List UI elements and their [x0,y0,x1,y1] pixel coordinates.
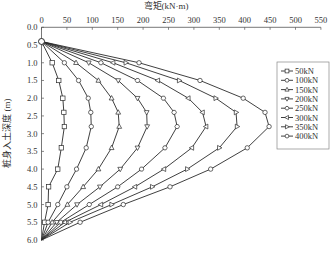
y-tick-label: 4.5 [27,182,38,192]
hexagon-marker-icon [139,167,144,171]
circle-marker-icon [121,202,125,206]
triangle-down-marker-icon [144,111,149,115]
x-tick-label: 200 [137,15,150,25]
x-tick-label: 450 [264,15,277,25]
y-tick-label: 5.0 [27,200,38,210]
circle-marker-icon [285,78,289,82]
circle-marker-icon [198,78,202,82]
series-line [42,41,65,240]
circle-marker-icon [89,110,93,114]
circle-marker-icon [137,61,141,65]
circle-marker-icon [241,96,245,100]
series-100kN [42,41,94,240]
hexagon-marker-icon [285,106,289,109]
square-marker-icon [62,110,66,114]
y-axis-title: 桩身入土深度 (m) [1,98,12,167]
circle-marker-icon [84,146,88,150]
series-line [42,41,92,240]
y-tick-label: 5.5 [27,217,38,227]
hexagon-marker-icon [99,61,104,65]
circle-marker-icon [168,185,172,189]
triangle-up-marker-icon [74,60,79,64]
triangle-right-marker-icon [68,220,72,225]
series-400kN [42,41,272,240]
triangle-up-marker-icon [117,124,122,128]
hexagon-marker-icon [163,146,168,150]
series-300kN [42,41,208,240]
x-axis-title: 弯矩(kN·m) [144,0,189,11]
triangle-left-marker-icon [155,78,159,83]
square-marker-icon [59,146,63,150]
triangle-up-marker-icon [116,110,121,114]
x-axis-label: 弯矩(kN·m) [144,0,189,11]
hexagon-marker-icon [161,96,166,100]
circle-marker-icon [208,167,212,171]
x-tick-label: 550 [315,15,328,25]
y-tick-label: 1.0 [27,58,38,68]
x-tick-label: 150 [111,15,124,25]
circle-marker-icon [285,134,289,138]
square-marker-icon [285,69,289,73]
hexagon-marker-icon [172,110,177,114]
triangle-right-marker-icon [110,202,114,207]
circle-marker-icon [65,185,69,189]
y-tick-label: 0.5 [27,40,38,50]
square-marker-icon [61,96,65,100]
circle-marker-icon [267,124,271,128]
circle-marker-icon [245,146,249,150]
triangle-down-marker-icon [145,125,150,129]
triangle-right-marker-icon [177,78,181,83]
square-marker-icon [46,202,50,206]
square-marker-icon [46,185,50,189]
x-tick-label: 300 [188,15,201,25]
moment-depth-chart: 弯矩(kN·m) 桩身入土深度 (m) 05010015020025030035… [0,0,336,254]
triangle-down-marker-icon [86,61,91,65]
y-tick-label: 4.0 [27,164,38,174]
y-tick-label: 3.0 [27,129,38,139]
circle-marker-icon [89,124,93,128]
hexagon-marker-icon [115,185,120,189]
circle-marker-icon [56,202,60,206]
y-axis-label: 桩身入土深度 (m) [1,98,12,167]
triangle-right-marker-icon [235,124,239,129]
triangle-left-marker-icon [98,202,102,207]
square-marker-icon [56,167,60,171]
circle-marker-icon [74,167,78,171]
hexagon-marker-icon [175,125,180,129]
triangle-left-marker-icon [132,184,136,189]
series-line [42,41,207,240]
hexagon-marker-icon [135,78,140,82]
legend-label: 400kN [295,131,318,141]
x-tick-label: 500 [289,15,302,25]
x-tick-label: 350 [213,15,226,25]
legend: 50kN100kN150kN200kN250kN300kN350kN400kN [277,62,329,149]
triangle-up-marker-icon [109,145,114,149]
y-tick-label: 2.5 [27,111,38,121]
plot-area [39,38,272,240]
circle-marker-icon [78,220,82,224]
series-line [42,41,270,240]
y-tick-label: 6.0 [27,235,38,245]
origin-marker-icon [39,38,45,44]
circle-marker-icon [76,78,80,82]
x-tick-label: 250 [162,15,175,25]
square-marker-icon [50,61,54,65]
triangle-left-marker-icon [186,96,190,101]
y-tick-label: 3.5 [27,146,38,156]
x-tick-label: 50 [63,15,72,25]
triangle-right-marker-icon [150,184,154,189]
x-tick-label: 400 [238,15,251,25]
x-tick-label: 100 [86,15,99,25]
triangle-down-marker-icon [98,185,103,189]
circle-marker-icon [263,110,267,114]
y-tick-label: 1.5 [27,75,38,85]
square-marker-icon [62,124,66,128]
triangle-up-marker-icon [96,78,101,82]
triangle-left-marker-icon [110,60,114,65]
circle-marker-icon [86,96,90,100]
hexagon-marker-icon [87,203,92,207]
square-marker-icon [57,78,61,82]
y-tick-label: 0.0 [27,22,38,32]
x-tick-label: 0 [39,15,43,25]
y-tick-label: 2.0 [27,93,38,103]
